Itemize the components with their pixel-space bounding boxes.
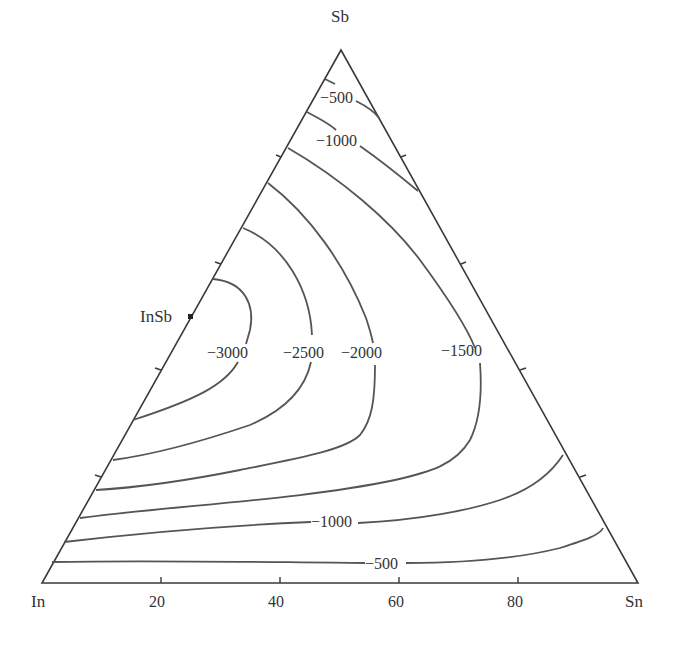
isolines	[52, 79, 603, 563]
tick-label-40: 40	[268, 593, 284, 610]
isoline-minus-3000	[213, 279, 251, 344]
contour-label-3000: −3000	[207, 344, 248, 361]
insb-marker	[188, 314, 193, 319]
contour-label-1500: −1500	[441, 342, 482, 359]
contour-label-1000-bottom: −1000	[311, 513, 352, 530]
contour-label-500-top: −500	[320, 89, 353, 106]
isoline-minus-500-top	[325, 79, 335, 84]
isoline-minus-1500	[288, 148, 475, 348]
contour-label-1000-top: −1000	[316, 132, 357, 149]
vertex-label-in: In	[31, 592, 46, 611]
ternary-triangle	[42, 50, 638, 583]
bottom-axis-ticks	[161, 577, 518, 583]
tick-label-20: 20	[149, 593, 165, 610]
vertex-label-sn: Sn	[625, 592, 643, 611]
contour-label-2500: −2500	[283, 344, 324, 361]
ternary-diagram: Sb In Sn InSb 20 40 60 80 −500 −1000 −30…	[0, 0, 675, 648]
right-axis-ticks	[401, 155, 586, 477]
contour-label-2000: −2000	[341, 344, 382, 361]
contour-label-500-bottom: −500	[365, 555, 398, 572]
vertex-label-sb: Sb	[331, 7, 349, 26]
isoline-minus-2000	[268, 183, 373, 343]
tick-label-60: 60	[388, 593, 404, 610]
isoline-minus-1000-bottom	[64, 522, 311, 542]
isoline-minus-500-bottom	[52, 561, 365, 563]
isoline-minus-1000-top	[307, 112, 336, 130]
tick-label-80: 80	[507, 593, 523, 610]
compound-label-insb: InSb	[140, 307, 172, 326]
isoline-minus-2500	[243, 228, 312, 335]
